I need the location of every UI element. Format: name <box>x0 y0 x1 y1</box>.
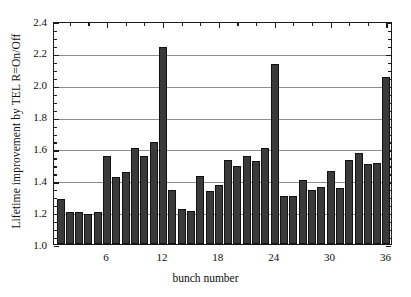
y-axis-tick-minor <box>54 39 57 40</box>
x-tick-label: 24 <box>259 252 289 263</box>
bar <box>215 185 223 244</box>
bar <box>112 177 120 244</box>
y-axis-tick-major <box>54 119 59 120</box>
y-axis-tick-major <box>386 246 391 247</box>
bar <box>224 160 232 244</box>
bar <box>187 211 195 244</box>
y-axis-tick-minor <box>54 71 57 72</box>
bar <box>75 212 83 244</box>
x-axis-label: bunch number <box>0 272 411 284</box>
y-axis-tick-minor <box>54 190 57 191</box>
y-axis-tick-minor <box>54 103 57 104</box>
bar <box>317 187 325 244</box>
y-axis-tick-major <box>386 55 391 56</box>
x-axis-tick-minor <box>70 23 71 26</box>
bar <box>206 191 214 244</box>
bar <box>150 142 158 244</box>
x-axis-tick-major <box>331 23 332 28</box>
y-axis-tick-minor <box>54 135 57 136</box>
bar <box>233 166 241 244</box>
y-axis-tick-major <box>54 182 59 183</box>
gridline <box>54 119 391 120</box>
y-axis-tick-minor <box>54 95 57 96</box>
bar <box>280 196 288 244</box>
x-axis-tick-minor <box>144 23 145 26</box>
bar <box>308 190 316 244</box>
y-axis-tick-minor <box>54 63 57 64</box>
x-axis-tick-major <box>163 23 164 28</box>
x-axis-tick-major <box>107 23 108 28</box>
bar <box>159 47 167 245</box>
plot-area <box>53 22 392 245</box>
bar <box>57 199 65 244</box>
x-axis-tick-minor <box>237 23 238 26</box>
bar <box>196 176 204 244</box>
bar <box>373 163 381 244</box>
y-axis-label: Lifetime improvement by TEL R=On/Off <box>10 11 22 251</box>
bar <box>355 153 363 244</box>
y-axis-tick-major <box>54 55 59 56</box>
x-axis-tick-minor <box>88 23 89 26</box>
x-tick-label: 30 <box>315 252 345 263</box>
bar <box>168 190 176 244</box>
bar <box>178 209 186 244</box>
gridline <box>54 150 391 151</box>
bar <box>364 164 372 244</box>
bar <box>131 148 139 244</box>
bar <box>289 196 297 244</box>
x-axis-tick-major <box>275 23 276 28</box>
y-axis-tick-minor <box>54 127 57 128</box>
x-axis-tick-minor <box>368 23 369 26</box>
x-tick-label: 6 <box>91 252 121 263</box>
bar <box>84 214 92 244</box>
x-axis-tick-minor <box>349 23 350 26</box>
bar <box>336 188 344 244</box>
x-tick-label: 36 <box>370 252 400 263</box>
bar <box>327 171 335 244</box>
bar <box>252 161 260 244</box>
y-axis-tick-major <box>54 150 59 151</box>
x-axis-tick-minor <box>312 23 313 26</box>
bar <box>94 212 102 244</box>
gridline <box>54 87 391 88</box>
chart-figure: Lifetime improvement by TEL R=On/Off 1.0… <box>0 0 411 297</box>
bar <box>271 64 279 244</box>
y-axis-tick-minor <box>54 111 57 112</box>
x-axis-tick-minor <box>293 23 294 26</box>
bar <box>261 148 269 244</box>
y-axis-tick-minor <box>388 31 391 32</box>
y-axis-tick-minor <box>388 47 391 48</box>
y-axis-tick-minor <box>54 79 57 80</box>
y-axis-tick-major <box>54 246 59 247</box>
bar <box>66 212 74 244</box>
bar <box>103 156 111 244</box>
x-tick-label: 12 <box>147 252 177 263</box>
bar <box>345 160 353 244</box>
x-tick-label: 18 <box>203 252 233 263</box>
x-axis-tick-minor <box>182 23 183 26</box>
x-axis-tick-minor <box>200 23 201 26</box>
x-axis-tick-minor <box>256 23 257 26</box>
y-axis-tick-minor <box>54 142 57 143</box>
bar <box>243 156 251 244</box>
y-axis-tick-minor <box>388 63 391 64</box>
bar <box>122 172 130 244</box>
y-axis-tick-major <box>54 87 59 88</box>
y-axis-tick-minor <box>388 39 391 40</box>
bar <box>299 180 307 244</box>
y-axis-tick-minor <box>54 158 57 159</box>
x-axis-tick-major <box>219 23 220 28</box>
y-axis-tick-major <box>54 23 59 24</box>
y-axis-tick-minor <box>54 174 57 175</box>
y-axis-tick-minor <box>54 166 57 167</box>
y-axis-tick-minor <box>388 71 391 72</box>
bar <box>140 156 148 244</box>
y-axis-tick-minor <box>54 31 57 32</box>
gridline <box>54 55 391 56</box>
y-axis-tick-minor <box>54 47 57 48</box>
x-axis-tick-minor <box>126 23 127 26</box>
x-axis-tick-major <box>386 23 387 28</box>
bar <box>382 77 390 244</box>
